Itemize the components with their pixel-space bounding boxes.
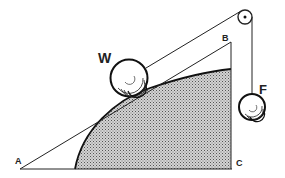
ball-f (239, 94, 265, 122)
label-b: B (222, 33, 229, 43)
label-f: F (259, 82, 267, 97)
pulley-icon (238, 10, 252, 24)
ball-w (111, 60, 148, 98)
incline-diagram: W F B A C (0, 0, 285, 178)
label-c: C (236, 158, 243, 168)
label-a: A (15, 156, 22, 166)
label-w: W (98, 50, 112, 66)
curved-surface-region (75, 69, 231, 169)
